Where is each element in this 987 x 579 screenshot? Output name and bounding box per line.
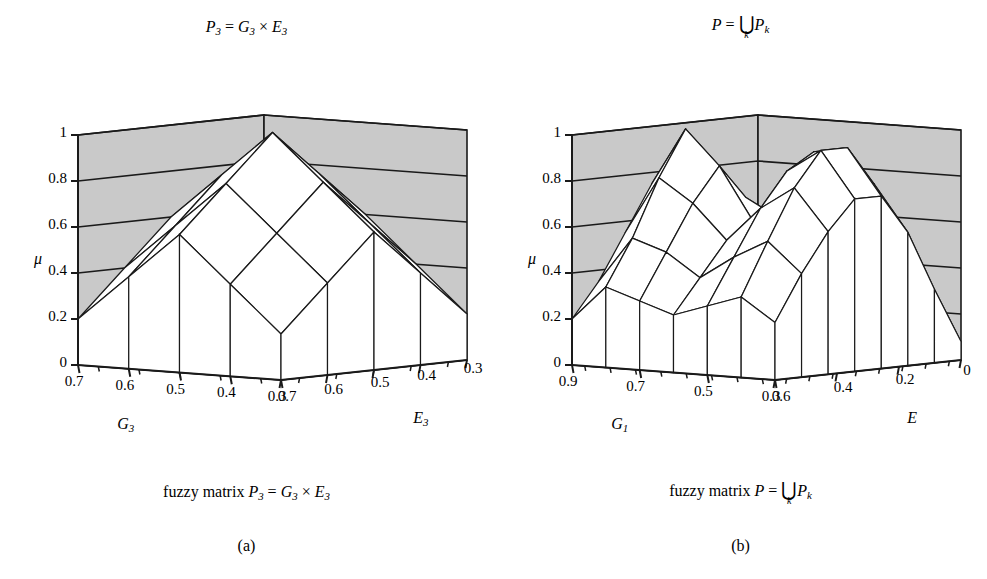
y-tick-minor bbox=[925, 364, 926, 369]
y-tick-label: 0.2 bbox=[896, 371, 915, 388]
y-tick-minor bbox=[299, 378, 300, 383]
z-tick-label: 0.2 bbox=[48, 308, 67, 325]
x-tick-minor bbox=[712, 375, 713, 380]
y-tick-label: 0.4 bbox=[834, 379, 853, 396]
y-tick-label: 0.7 bbox=[278, 388, 297, 405]
y-tick-minor bbox=[410, 366, 411, 371]
z-tick-label: 0.4 bbox=[48, 262, 67, 279]
x-tick-minor bbox=[585, 366, 586, 371]
x-tick-major bbox=[707, 375, 709, 383]
x-tick-minor bbox=[661, 372, 662, 377]
z-tick-label: 0.6 bbox=[542, 216, 561, 233]
x-tick-major bbox=[129, 369, 131, 377]
x-tick-minor bbox=[139, 370, 140, 375]
x-tick-minor bbox=[261, 379, 262, 384]
skirt-face bbox=[855, 196, 882, 371]
panel-b: P = ⋃kPk fuzzy matrix P = ⋃kPk (b) 00.20… bbox=[494, 0, 987, 579]
y-tick-major bbox=[774, 380, 776, 388]
z-tick-label: 0 bbox=[60, 354, 68, 371]
panel-b-caption: fuzzy matrix P = ⋃kPk bbox=[494, 480, 987, 501]
y-tick-minor bbox=[786, 379, 787, 384]
x-tick-label: 0.5 bbox=[166, 381, 185, 398]
y-tick-label: 0.3 bbox=[464, 360, 483, 377]
x-tick-minor bbox=[762, 379, 763, 384]
z-tick-label: 0.2 bbox=[542, 308, 561, 325]
z-tick-label: 0.6 bbox=[48, 216, 67, 233]
z-tick-label: 1 bbox=[554, 124, 562, 141]
z-tick-label: 1 bbox=[60, 124, 68, 141]
z-tick-label: 0 bbox=[554, 354, 562, 371]
y-axis-name: E3 bbox=[413, 409, 428, 428]
y-axis-name: E bbox=[907, 409, 917, 427]
x-tick-minor bbox=[737, 377, 738, 382]
y-tick-minor bbox=[447, 362, 448, 367]
y-tick-minor bbox=[855, 371, 856, 376]
y-tick-label: 0.5 bbox=[371, 374, 390, 391]
skirt-face bbox=[606, 287, 640, 370]
skirt-face bbox=[674, 306, 708, 375]
y-tick-major bbox=[960, 360, 962, 368]
x-tick-label: 0.4 bbox=[217, 384, 236, 401]
x-tick-major bbox=[640, 370, 642, 378]
x-tick-minor bbox=[220, 376, 221, 381]
x-axis-name: G3 bbox=[117, 415, 134, 434]
y-tick-major bbox=[280, 380, 282, 388]
x-tick-label: 0.7 bbox=[65, 373, 84, 390]
x-tick-minor bbox=[610, 368, 611, 373]
z-axis-name: μ bbox=[528, 250, 536, 268]
panel-b-plot bbox=[494, 40, 987, 460]
x-tick-major bbox=[572, 365, 574, 373]
x-tick-minor bbox=[98, 367, 99, 372]
y-tick-minor bbox=[809, 376, 810, 381]
y-tick-label: 0.6 bbox=[772, 388, 791, 405]
x-axis-name: G1 bbox=[611, 415, 628, 434]
y-tick-label: 0 bbox=[963, 362, 971, 379]
z-axis-name: μ bbox=[34, 250, 42, 268]
panel-a-plot bbox=[0, 40, 493, 460]
panel-a-caption: fuzzy matrix P3 = G3 × E3 bbox=[0, 483, 493, 502]
x-tick-minor bbox=[180, 373, 181, 378]
y-tick-label: 0.6 bbox=[324, 381, 343, 398]
x-tick-major bbox=[230, 376, 232, 384]
skirt-face bbox=[707, 297, 741, 378]
panel-a-letter: (a) bbox=[0, 537, 493, 555]
y-tick-minor bbox=[832, 374, 833, 379]
z-tick-label: 0.4 bbox=[542, 262, 561, 279]
y-tick-label: 0.4 bbox=[417, 367, 436, 384]
panel-a-title: P3 = G3 × E3 bbox=[0, 18, 493, 37]
x-tick-label: 0.6 bbox=[115, 377, 134, 394]
x-tick-label: 0.5 bbox=[694, 383, 713, 400]
panel-b-title: P = ⋃kPk bbox=[494, 14, 987, 35]
x-tick-minor bbox=[686, 373, 687, 378]
z-tick-label: 0.8 bbox=[48, 170, 67, 187]
y-tick-minor bbox=[336, 374, 337, 379]
panel-a: P3 = G3 × E3 fuzzy matrix P3 = G3 × E3 (… bbox=[0, 0, 493, 579]
y-tick-minor bbox=[879, 369, 880, 374]
y-tick-minor bbox=[948, 361, 949, 366]
x-tick-major bbox=[78, 365, 80, 373]
panel-b-letter: (b) bbox=[494, 537, 987, 555]
x-tick-minor bbox=[635, 370, 636, 375]
x-tick-label: 0.7 bbox=[626, 378, 645, 395]
x-tick-label: 0.9 bbox=[559, 373, 578, 390]
figure-root: P3 = G3 × E3 fuzzy matrix P3 = G3 × E3 (… bbox=[0, 0, 987, 579]
z-tick-label: 0.8 bbox=[542, 170, 561, 187]
